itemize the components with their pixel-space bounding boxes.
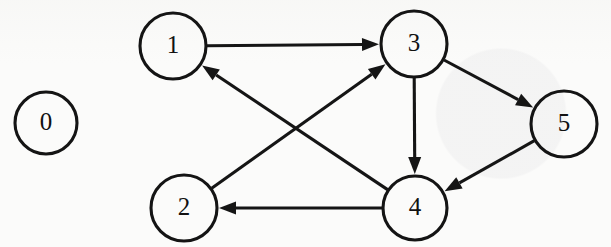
arrow-head-icon bbox=[368, 64, 386, 79]
graph-node-3[interactable]: 3 bbox=[381, 11, 447, 77]
graph-node-2[interactable]: 2 bbox=[151, 175, 217, 241]
arrow-head-icon bbox=[219, 202, 236, 215]
arrow-head-icon bbox=[362, 38, 379, 51]
node-label-2: 2 bbox=[178, 193, 191, 220]
edge-5-to-4 bbox=[445, 141, 535, 192]
edge-4-to-2 bbox=[219, 202, 382, 215]
node-label-0: 0 bbox=[40, 108, 53, 135]
edges-layer bbox=[202, 38, 534, 215]
graph-node-0[interactable]: 0 bbox=[15, 92, 77, 154]
node-label-3: 3 bbox=[408, 29, 421, 56]
edge-shaft bbox=[444, 60, 518, 100]
arrow-head-icon bbox=[515, 94, 533, 108]
edge-shaft bbox=[459, 141, 534, 183]
edge-shaft bbox=[207, 44, 362, 45]
edge-shaft bbox=[212, 74, 372, 188]
edge-3-to-5 bbox=[444, 60, 533, 108]
node-label-4: 4 bbox=[409, 193, 422, 220]
graph-node-5[interactable]: 5 bbox=[531, 91, 597, 157]
arrow-head-icon bbox=[445, 177, 463, 191]
edge-1-to-3 bbox=[207, 38, 379, 51]
arrow-head-icon bbox=[408, 157, 421, 174]
graph-node-4[interactable]: 4 bbox=[383, 176, 447, 240]
arrow-head-icon bbox=[202, 65, 220, 80]
figure-canvas: 012345 bbox=[0, 0, 611, 247]
node-label-1: 1 bbox=[167, 31, 180, 58]
edge-3-to-4 bbox=[408, 78, 421, 174]
directed-graph: 012345 bbox=[0, 0, 611, 247]
node-label-5: 5 bbox=[558, 109, 571, 136]
edge-shaft bbox=[216, 75, 387, 190]
graph-node-1[interactable]: 1 bbox=[140, 13, 206, 79]
